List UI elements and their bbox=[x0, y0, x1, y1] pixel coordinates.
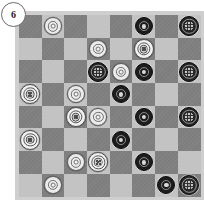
square-a5[interactable] bbox=[19, 83, 42, 106]
square-e7[interactable] bbox=[110, 38, 133, 61]
square-f5[interactable] bbox=[132, 83, 155, 106]
white-king-piece[interactable] bbox=[20, 84, 40, 104]
square-g1[interactable] bbox=[155, 174, 178, 197]
white-man-piece[interactable] bbox=[67, 85, 85, 103]
black-man-piece[interactable] bbox=[112, 131, 130, 149]
move-number-label: 6 bbox=[11, 9, 16, 20]
square-d2[interactable] bbox=[87, 151, 110, 174]
square-d4[interactable] bbox=[87, 106, 110, 129]
square-f6[interactable] bbox=[132, 60, 155, 83]
black-king-piece[interactable] bbox=[179, 175, 199, 195]
black-man-piece[interactable] bbox=[157, 176, 175, 194]
black-man-piece[interactable] bbox=[135, 63, 153, 81]
checkers-board-screenshot: 6 bbox=[0, 0, 204, 210]
black-man-piece[interactable] bbox=[135, 153, 153, 171]
white-king-piece[interactable] bbox=[88, 152, 108, 172]
square-d7[interactable] bbox=[87, 38, 110, 61]
square-f3[interactable] bbox=[132, 128, 155, 151]
piece-inner-ring bbox=[73, 92, 78, 97]
square-c6[interactable] bbox=[64, 60, 87, 83]
square-h5[interactable] bbox=[178, 83, 201, 106]
square-c2[interactable] bbox=[64, 151, 87, 174]
checkers-board[interactable] bbox=[19, 15, 201, 197]
square-e8[interactable] bbox=[110, 15, 133, 38]
black-king-piece[interactable] bbox=[179, 16, 199, 36]
square-a3[interactable] bbox=[19, 128, 42, 151]
square-e6[interactable] bbox=[110, 60, 133, 83]
black-man-piece[interactable] bbox=[135, 17, 153, 35]
white-king-piece[interactable] bbox=[134, 39, 154, 59]
square-d1[interactable] bbox=[87, 174, 110, 197]
white-man-piece[interactable] bbox=[44, 176, 62, 194]
square-h4[interactable] bbox=[178, 106, 201, 129]
square-c4[interactable] bbox=[64, 106, 87, 129]
black-man-piece[interactable] bbox=[112, 85, 130, 103]
black-king-piece[interactable] bbox=[179, 107, 199, 127]
square-g6[interactable] bbox=[155, 60, 178, 83]
square-f7[interactable] bbox=[132, 38, 155, 61]
square-e5[interactable] bbox=[110, 83, 133, 106]
square-g3[interactable] bbox=[155, 128, 178, 151]
white-man-piece[interactable] bbox=[89, 108, 107, 126]
square-b3[interactable] bbox=[42, 128, 65, 151]
square-e4[interactable] bbox=[110, 106, 133, 129]
piece-inner-ring bbox=[51, 183, 56, 188]
square-g7[interactable] bbox=[155, 38, 178, 61]
square-c5[interactable] bbox=[64, 83, 87, 106]
square-f8[interactable] bbox=[132, 15, 155, 38]
move-number-badge: 6 bbox=[1, 2, 26, 27]
square-h1[interactable] bbox=[178, 174, 201, 197]
square-c7[interactable] bbox=[64, 38, 87, 61]
piece-inner-ring bbox=[73, 160, 78, 165]
square-b8[interactable] bbox=[42, 15, 65, 38]
square-f4[interactable] bbox=[132, 106, 155, 129]
white-man-piece[interactable] bbox=[44, 17, 62, 35]
square-h2[interactable] bbox=[178, 151, 201, 174]
square-c1[interactable] bbox=[64, 174, 87, 197]
square-b2[interactable] bbox=[42, 151, 65, 174]
square-g2[interactable] bbox=[155, 151, 178, 174]
square-h3[interactable] bbox=[178, 128, 201, 151]
square-a1[interactable] bbox=[19, 174, 42, 197]
square-b1[interactable] bbox=[42, 174, 65, 197]
square-c8[interactable] bbox=[64, 15, 87, 38]
square-a2[interactable] bbox=[19, 151, 42, 174]
square-g4[interactable] bbox=[155, 106, 178, 129]
square-e1[interactable] bbox=[110, 174, 133, 197]
black-man-piece[interactable] bbox=[135, 108, 153, 126]
white-man-piece[interactable] bbox=[67, 153, 85, 171]
white-king-piece[interactable] bbox=[66, 107, 86, 127]
square-a4[interactable] bbox=[19, 106, 42, 129]
square-a6[interactable] bbox=[19, 60, 42, 83]
black-king-piece[interactable] bbox=[88, 62, 108, 82]
square-h8[interactable] bbox=[178, 15, 201, 38]
square-c3[interactable] bbox=[64, 128, 87, 151]
square-f2[interactable] bbox=[132, 151, 155, 174]
square-b4[interactable] bbox=[42, 106, 65, 129]
white-man-piece[interactable] bbox=[89, 40, 107, 58]
square-e2[interactable] bbox=[110, 151, 133, 174]
square-h7[interactable] bbox=[178, 38, 201, 61]
square-g5[interactable] bbox=[155, 83, 178, 106]
piece-inner-ring bbox=[96, 115, 101, 120]
piece-inner-ring bbox=[119, 69, 124, 74]
square-b6[interactable] bbox=[42, 60, 65, 83]
square-e3[interactable] bbox=[110, 128, 133, 151]
square-a7[interactable] bbox=[19, 38, 42, 61]
square-d6[interactable] bbox=[87, 60, 110, 83]
piece-inner-ring bbox=[96, 47, 101, 52]
square-d8[interactable] bbox=[87, 15, 110, 38]
white-man-piece[interactable] bbox=[112, 63, 130, 81]
square-d3[interactable] bbox=[87, 128, 110, 151]
square-g8[interactable] bbox=[155, 15, 178, 38]
white-king-piece[interactable] bbox=[20, 130, 40, 150]
piece-inner-ring bbox=[51, 24, 56, 29]
square-b5[interactable] bbox=[42, 83, 65, 106]
black-king-piece[interactable] bbox=[179, 62, 199, 82]
square-b7[interactable] bbox=[42, 38, 65, 61]
square-f1[interactable] bbox=[132, 174, 155, 197]
square-h6[interactable] bbox=[178, 60, 201, 83]
square-d5[interactable] bbox=[87, 83, 110, 106]
